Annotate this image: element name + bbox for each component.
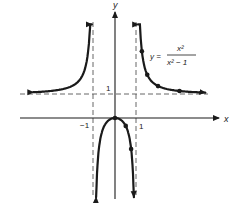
- data-point: [129, 147, 134, 152]
- y-axis-label: y: [112, 0, 118, 10]
- data-point: [156, 84, 161, 89]
- data-point: [140, 49, 145, 54]
- data-point: [113, 116, 118, 121]
- data-point: [145, 73, 150, 78]
- function-label: y = x² x² − 1: [149, 44, 196, 67]
- tick-label-x-neg1: −1: [80, 121, 90, 130]
- tick-label-x-pos1: 1: [139, 122, 144, 131]
- function-numerator: x²: [176, 44, 184, 53]
- data-point: [177, 89, 182, 94]
- axes: [20, 12, 219, 199]
- x-axis-label: x: [223, 114, 229, 124]
- left-branch: [33, 24, 92, 92]
- tick-label-y-pos1: 1: [106, 84, 111, 93]
- function-denominator: x² − 1: [166, 58, 187, 67]
- data-point: [123, 124, 128, 129]
- function-graph: y x −1 1 1 y = x² x² − 1: [0, 0, 231, 206]
- function-lhs: y =: [149, 52, 161, 61]
